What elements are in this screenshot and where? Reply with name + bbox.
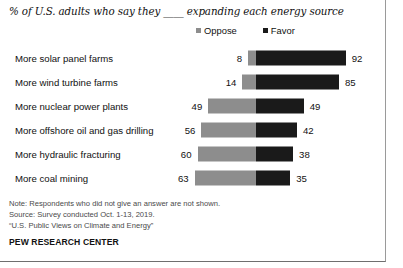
- legend-item-favor: Favor: [263, 26, 295, 35]
- bar-segment-favor: [256, 99, 304, 114]
- chart-legend: Oppose Favor: [196, 26, 295, 35]
- note-line-1: Note: Respondents who did not give an an…: [9, 198, 220, 209]
- bar-group: 892: [0, 51, 386, 66]
- bar-segment-oppose: [208, 99, 256, 114]
- value-label-favor: 42: [303, 125, 339, 136]
- value-label-oppose: 63: [153, 173, 189, 184]
- bar-segment-oppose: [248, 51, 256, 66]
- chart-row: More nuclear power plants4949: [0, 94, 386, 118]
- legend-label-oppose: Oppose: [204, 26, 237, 35]
- value-label-oppose: 49: [166, 101, 202, 112]
- bar-segment-oppose: [195, 171, 256, 186]
- legend-swatch-oppose: [196, 28, 201, 33]
- bar-segment-oppose: [198, 147, 257, 162]
- value-label-favor: 92: [352, 53, 388, 64]
- value-label-oppose: 56: [159, 125, 195, 136]
- chart-row: More hydraulic fracturing6038: [0, 142, 386, 166]
- legend-item-oppose: Oppose: [196, 26, 237, 35]
- legend-label-favor: Favor: [271, 26, 295, 35]
- note-line-2: Source: Survey conducted Oct. 1-13, 2019…: [9, 209, 220, 220]
- note-line-3: “U.S. Public Views on Climate and Energy…: [9, 220, 220, 231]
- value-label-oppose: 8: [206, 53, 242, 64]
- bar-group: 5642: [0, 123, 386, 138]
- bar-segment-favor: [256, 123, 297, 138]
- chart-title: % of U.S. adults who say they ____ expan…: [9, 5, 344, 17]
- bar-segment-favor: [256, 51, 346, 66]
- chart-notes: Note: Respondents who did not give an an…: [9, 198, 220, 232]
- chart-plot-area: More solar panel farms892More wind turbi…: [0, 46, 386, 191]
- pew-research-center-brand: PEW RESEARCH CENTER: [9, 237, 119, 247]
- bar-group: 6038: [0, 147, 386, 162]
- bar-segment-oppose: [201, 123, 256, 138]
- chart-figure: % of U.S. adults who say they ____ expan…: [0, 0, 386, 262]
- value-label-favor: 49: [310, 101, 346, 112]
- value-label-favor: 35: [296, 173, 332, 184]
- bar-segment-favor: [256, 171, 290, 186]
- chart-row: More wind turbine farms1485: [0, 70, 386, 94]
- chart-row: More offshore oil and gas drilling5642: [0, 118, 386, 142]
- value-label-oppose: 14: [200, 77, 236, 88]
- chart-row: More coal mining6335: [0, 166, 386, 190]
- bar-group: 4949: [0, 99, 386, 114]
- value-label-favor: 38: [299, 149, 335, 160]
- bar-segment-favor: [256, 147, 293, 162]
- value-label-favor: 85: [345, 77, 381, 88]
- bar-segment-oppose: [242, 75, 256, 90]
- chart-row: More solar panel farms892: [0, 46, 386, 70]
- value-label-oppose: 60: [156, 149, 192, 160]
- bar-group: 6335: [0, 171, 386, 186]
- bar-segment-favor: [256, 75, 339, 90]
- bar-group: 1485: [0, 75, 386, 90]
- legend-swatch-favor: [263, 28, 268, 33]
